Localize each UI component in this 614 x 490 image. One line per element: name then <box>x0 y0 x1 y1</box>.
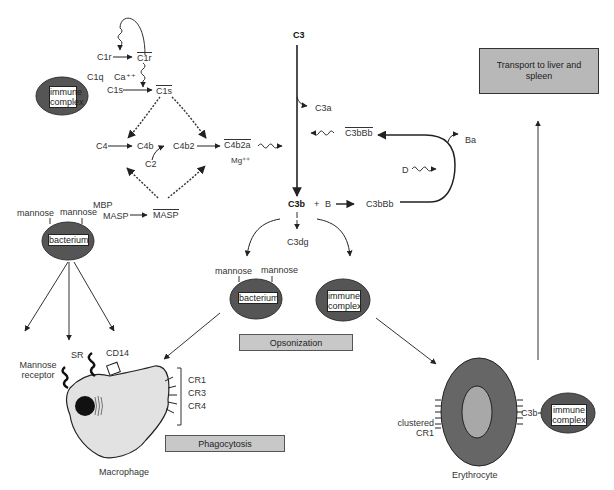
c1s-to-c4-wavy <box>128 97 160 138</box>
d-label: D <box>402 165 409 175</box>
c1s-right-label: C1s <box>156 85 172 96</box>
macrophage-nucleus <box>75 396 95 416</box>
c3bbb-wavy-arrow <box>311 131 334 135</box>
cr4-label: CR4 <box>188 401 206 411</box>
cd14-shape <box>107 362 121 375</box>
mannose-receptor-label: Mannose receptor <box>18 360 58 380</box>
c3b-to-bacterium-arrow <box>247 219 280 256</box>
mg-label: Mg⁺⁺ <box>231 156 250 166</box>
bacterium-label-left: bacterium <box>48 234 89 246</box>
c3a-label: C3a <box>315 103 332 113</box>
masp-right-label: MASP <box>153 209 179 220</box>
c3b-label: C3b <box>288 199 305 209</box>
c3dg-label: C3dg <box>287 237 309 247</box>
macrophage-label: Macrophage <box>99 467 149 477</box>
phagocytosis-box: Phagocytosis <box>165 435 285 452</box>
c2-label: C2 <box>145 159 157 169</box>
immune-complex-label-top: immune complex <box>49 86 77 108</box>
c1q-label: C1q <box>87 72 104 82</box>
cd14-label: CD14 <box>106 348 129 358</box>
c1r-to-c1s-wavy <box>141 63 145 87</box>
c4b-label: C4b <box>137 141 154 151</box>
c1r-wavy-arrow <box>118 28 122 50</box>
mannose-receptor-shape <box>63 367 69 388</box>
opsonization-mannose-2: mannose <box>261 265 298 275</box>
masp-left-label: MASP <box>103 211 129 221</box>
erythrocyte-c3b-label: C3b <box>521 408 538 418</box>
opsonization-mannose-1: mannose <box>215 266 252 276</box>
c4b2a-label: C4b2a <box>224 139 251 150</box>
c4b2-label: C4b2 <box>173 141 195 151</box>
sr-label: SR <box>71 350 84 360</box>
c4b2a-wavy-arrow <box>258 144 282 148</box>
immune-complex-label-erythrocyte: immune complex <box>551 404 587 426</box>
bacterium-label-opsonized: bacterium <box>238 292 278 304</box>
c4-label: C4 <box>96 141 108 151</box>
c3a-arrow <box>297 97 307 106</box>
ca-label: Ca⁺⁺ <box>114 72 136 82</box>
sr-shape <box>89 353 95 376</box>
opsonization-box: Opsonization <box>239 334 353 351</box>
transport-box: Transport to liver and spleen <box>479 48 599 94</box>
ba-label: Ba <box>465 135 476 145</box>
erythrocyte-label: Erythrocyte <box>452 470 498 480</box>
clustered-cr1-label: clustered CR1 <box>394 418 434 438</box>
erythrocyte-core <box>462 386 492 438</box>
c3b-to-immune-arrow <box>317 219 350 256</box>
c1s-left-label: C1s <box>107 85 123 95</box>
c1r-right-label: C1r <box>137 52 152 63</box>
immune-complex-label-opsonized: immune complex <box>327 290 361 312</box>
c3bbb-top-label: C3bBb <box>345 127 373 138</box>
mannose-label-1: mannose <box>17 208 54 218</box>
mannose-label-2: mannose <box>60 207 97 217</box>
cr3-label: CR3 <box>188 388 206 398</box>
plus-label: + <box>314 199 319 209</box>
c1s-to-c2-wavy <box>172 97 206 138</box>
cr1-label: CR1 <box>188 375 206 385</box>
ba-arrow <box>448 134 458 142</box>
masp-to-c4-wavy <box>127 168 158 198</box>
d-wavy-arrow <box>412 167 436 171</box>
masp-to-c2-wavy <box>168 166 205 198</box>
c2-arrow <box>152 146 164 160</box>
c3bbb-label: C3bBb <box>366 199 394 209</box>
c3-label: C3 <box>293 30 305 40</box>
c1r-loop-line <box>120 18 145 55</box>
c1r-left-label: C1r <box>97 52 112 62</box>
b-label: B <box>325 199 331 209</box>
